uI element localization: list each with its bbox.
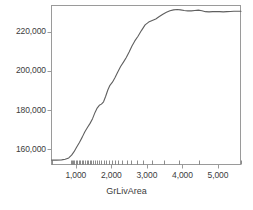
x-tick-label: 5,000 (196, 171, 240, 180)
y-tick-label: 180,000 (0, 106, 46, 115)
x-axis-title: GrLivArea (0, 186, 253, 196)
partial-dependence-chart: 160,000180,000200,000220,000 1,0002,0003… (0, 0, 253, 210)
pdp-line-series (52, 10, 241, 161)
y-tick-label: 160,000 (0, 145, 46, 154)
tick-marks (48, 33, 219, 169)
y-tick-label: 220,000 (0, 27, 46, 36)
y-tick-label: 200,000 (0, 66, 46, 75)
data-density-rug (53, 161, 242, 165)
